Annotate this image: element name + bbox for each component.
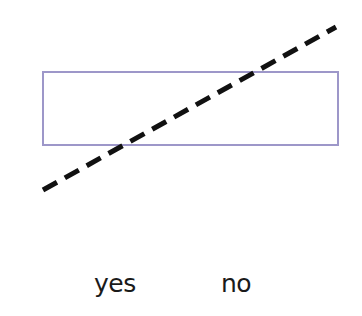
dashed-line	[43, 27, 336, 190]
label-no: no	[221, 271, 251, 296]
label-yes: yes	[94, 271, 136, 296]
diagram-canvas	[0, 0, 362, 316]
box	[43, 72, 338, 145]
